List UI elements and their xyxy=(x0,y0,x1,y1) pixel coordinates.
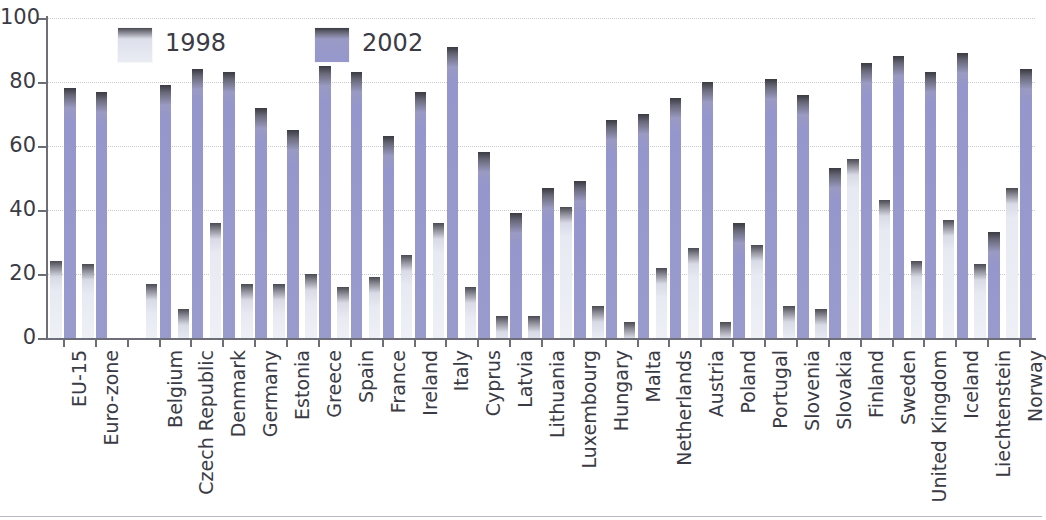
bar-group xyxy=(398,18,430,338)
bar-group xyxy=(908,18,940,338)
bar-fill xyxy=(847,159,859,338)
bar-fill xyxy=(287,130,299,338)
bar-fill xyxy=(606,120,618,338)
x-axis-tick xyxy=(222,338,224,347)
bar-1998 xyxy=(592,306,604,338)
bar-fill xyxy=(447,47,459,338)
x-axis-label-ireland: Ireland xyxy=(421,350,440,416)
bar-1998 xyxy=(943,220,955,338)
bar-group xyxy=(971,18,1003,338)
x-axis-tick xyxy=(382,338,384,347)
x-axis-tick xyxy=(254,338,256,347)
x-axis-tick xyxy=(700,338,702,347)
bar-2002 xyxy=(765,79,777,338)
bar-group xyxy=(79,18,111,338)
x-axis-label-lithuania: Lithuania xyxy=(548,350,567,438)
bar-group xyxy=(844,18,876,338)
x-axis-tick xyxy=(605,338,607,347)
bar-1998 xyxy=(146,284,158,338)
bar-fill xyxy=(656,268,668,338)
bar-fill xyxy=(160,85,172,338)
bar-1998 xyxy=(241,284,253,338)
bar-2002 xyxy=(702,82,714,338)
bar-fill xyxy=(765,79,777,338)
bar-fill xyxy=(305,274,317,338)
bar-group xyxy=(716,18,748,338)
bar-fill xyxy=(383,136,395,338)
bar-1998 xyxy=(210,223,222,338)
bar-fill xyxy=(178,309,190,338)
bar-2002 xyxy=(542,188,554,338)
bar-fill xyxy=(64,88,76,338)
x-axis-label-czech-republic: Czech Republic xyxy=(197,350,216,495)
bar-2002 xyxy=(797,95,809,338)
bar-group xyxy=(589,18,621,338)
y-axis-tick-label: 100 xyxy=(0,7,36,28)
bar-2002 xyxy=(925,72,937,338)
y-axis-line xyxy=(46,16,48,340)
x-axis-tick xyxy=(860,338,862,347)
legend-item-1998[interactable]: 1998 xyxy=(118,28,226,62)
legend-item-2002[interactable]: 2002 xyxy=(315,28,423,62)
bar-fill xyxy=(50,261,62,338)
bar-fill xyxy=(861,63,873,338)
bar-2002 xyxy=(606,120,618,338)
x-axis-tick xyxy=(127,338,129,347)
bar-1998 xyxy=(337,287,349,338)
chart-legend: 1998 2002 xyxy=(118,28,423,62)
bar-fill xyxy=(574,181,586,338)
bar-1998 xyxy=(656,268,668,338)
bar-1998 xyxy=(815,309,827,338)
bar-1998 xyxy=(82,264,94,338)
bar-2002 xyxy=(415,92,427,338)
x-axis-label-italy: Italy xyxy=(452,350,471,391)
bar-group xyxy=(684,18,716,338)
bar-fill xyxy=(638,114,650,338)
bar-1998 xyxy=(50,261,62,338)
bar-fill xyxy=(688,248,700,338)
x-axis-label-cyprus: Cyprus xyxy=(484,350,503,416)
bar-2002 xyxy=(988,232,1000,338)
bar-2002 xyxy=(383,136,395,338)
bar-2002 xyxy=(319,66,331,338)
bar-1998 xyxy=(624,322,636,338)
bar-fill xyxy=(319,66,331,338)
bar-1998 xyxy=(433,223,445,338)
bar-2002 xyxy=(287,130,299,338)
y-axis-tick-label: 20 xyxy=(0,263,36,284)
x-axis-label-finland: Finland xyxy=(867,350,886,418)
bar-2002 xyxy=(223,72,235,338)
bar-1998 xyxy=(401,255,413,338)
bar-fill xyxy=(146,284,158,338)
bar-fill xyxy=(542,188,554,338)
y-axis-tick-label: 80 xyxy=(0,71,36,92)
bar-2002 xyxy=(192,69,204,338)
x-axis-tick xyxy=(414,338,416,347)
bar-2002 xyxy=(351,72,363,338)
bar-group xyxy=(461,18,493,338)
x-axis-tick xyxy=(955,338,957,347)
bar-fill xyxy=(957,53,969,338)
x-axis-tick xyxy=(637,338,639,347)
x-axis-label-slovakia: Slovakia xyxy=(835,350,854,430)
x-axis-label-spain: Spain xyxy=(357,350,376,403)
x-axis-tick xyxy=(541,338,543,347)
bar-fill xyxy=(369,277,381,338)
bar-fill xyxy=(273,284,285,338)
bar-1998 xyxy=(783,306,795,338)
bar-2002 xyxy=(893,56,905,338)
x-axis-label-denmark: Denmark xyxy=(229,350,248,437)
bar-2002 xyxy=(861,63,873,338)
bar-group xyxy=(780,18,812,338)
plot-area xyxy=(47,18,1035,338)
x-axis-label-poland: Poland xyxy=(739,350,758,413)
x-axis-label-united-kingdom: United Kingdom xyxy=(930,350,949,503)
bar-fill xyxy=(401,255,413,338)
x-axis-label-sweden: Sweden xyxy=(899,350,918,425)
bar-2002 xyxy=(733,223,745,338)
x-axis-tick xyxy=(190,338,192,347)
bar-fill xyxy=(815,309,827,338)
bar-fill xyxy=(592,306,604,338)
x-axis-label-latvia: Latvia xyxy=(516,350,535,408)
bar-fill xyxy=(433,223,445,338)
